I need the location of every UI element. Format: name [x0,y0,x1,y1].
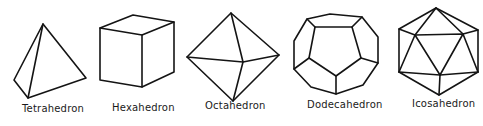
octahedron-drawing [187,13,279,101]
tetrahedron-drawing [14,24,86,98]
dodecahedron-label: Dodecahedron [307,99,383,110]
tetrahedron-label: Tetrahedron [22,103,84,114]
octahedron-label: Octahedron [205,100,266,111]
dodecahedron-drawing [294,14,378,94]
hexahedron-drawing [100,15,174,87]
icosahedron-label: Icosahedron [412,98,475,109]
hexahedron-label: Hexahedron [112,102,175,113]
icosahedron-drawing [399,8,478,95]
